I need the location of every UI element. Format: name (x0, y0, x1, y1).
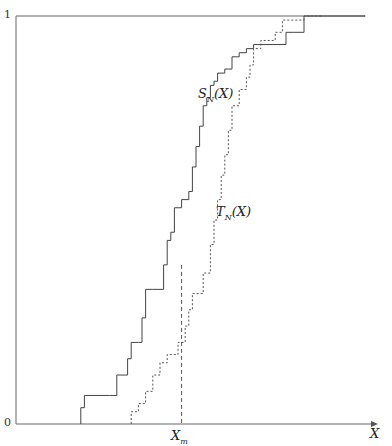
t-label-main: T (216, 204, 225, 219)
y-tick-1: 1 (4, 8, 11, 21)
t-label-arg: (X) (232, 204, 251, 219)
s-label-main: S (198, 86, 207, 101)
t-series-label: TN(X) (216, 204, 251, 222)
x-axis-label: X (370, 426, 379, 441)
s-label-sub: N (207, 95, 214, 104)
y-tick-0: 0 (4, 416, 11, 429)
s-label-arg: (X) (214, 86, 233, 101)
axes (16, 16, 378, 427)
t-label-sub: N (225, 213, 232, 222)
s-series-label: SN(X) (198, 86, 233, 104)
x-marker-main: X (171, 428, 180, 443)
x-marker-sub: m (180, 437, 188, 446)
x-marker-label: Xm (171, 428, 188, 446)
